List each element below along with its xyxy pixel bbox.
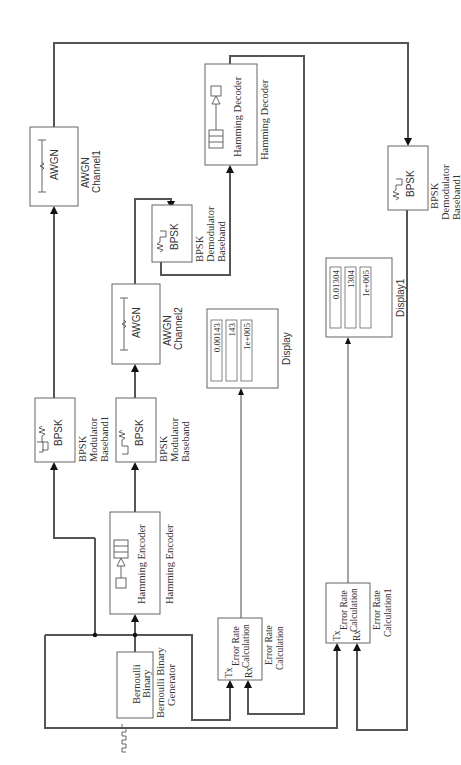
arrow-into-demod1 (404, 138, 412, 146)
block-error-rate-calculation[interactable]: Tx Rx Error Rate Calculation Error Rate … (218, 618, 285, 680)
bpsk-mod1-caption-line3: Baseband1 (99, 416, 110, 462)
block-display1[interactable]: 0.01304 1304 1e+005 Display1 (326, 258, 406, 337)
awgn2-icon-text: AWGN (131, 307, 142, 338)
bpsk-demod1-caption-line1: BPSK (429, 182, 440, 209)
block-bernoulli-binary-generator[interactable]: Bernoulli Binary Bernoulli Binary Genera… (117, 646, 177, 752)
hamming-encoder-icon-text: Hamming Encoder (136, 524, 147, 604)
bpsk-demod-caption-line2: Demodulator (205, 206, 216, 262)
awgn2-caption-line2: Channel2 (173, 307, 184, 350)
awgn2-caption-line1: AWGN (162, 315, 173, 346)
bpsk-demod-caption-line1: BPSK (194, 235, 205, 262)
bpsk-demod1-caption-line3: Baseband1 (451, 174, 461, 220)
block-awgn-channel2[interactable]: AWGN AWGN Channel2 (112, 284, 184, 364)
display-value-3: 1e+005 (242, 323, 252, 351)
awgn1-caption-line2: Channel1 (91, 150, 102, 193)
errrate1-icon-line2: Calculation (349, 588, 359, 632)
block-bpsk-modulator-baseband[interactable]: BPSK BPSK Modulator Baseband (116, 398, 191, 462)
arrow-into-errrate1-tx (333, 643, 341, 651)
branch-point-2 (133, 633, 137, 637)
arrow-into-mod (131, 462, 139, 470)
display-value-2: 143 (227, 323, 237, 337)
block-bpsk-demodulator-baseband[interactable]: BPSK BPSK Demodulator Baseband (152, 205, 227, 262)
block-awgn-channel1[interactable]: AWGN AWGN Channel1 (30, 127, 102, 206)
bpsk-mod-icon-text: BPSK (134, 419, 145, 446)
display-value-1: 0.00143 (212, 323, 222, 353)
simulink-diagram-canvas: Bernoulli Binary Bernoulli Binary Genera… (0, 0, 461, 765)
arrow-into-errrate-rx (244, 680, 252, 688)
bpsk-mod1-caption-line2: Modulator (88, 417, 99, 462)
block-display[interactable]: 0.00143 143 1e+005 Display (207, 309, 292, 388)
bpsk-mod-caption-line3: Baseband (180, 420, 191, 462)
bpsk-mod-caption-line2: Modulator (169, 417, 180, 462)
hamming-encoder-caption: Hamming Encoder (164, 524, 175, 604)
block-bpsk-demodulator-baseband1[interactable]: BPSK BPSK Demodulator Baseband1 (388, 146, 461, 220)
hamming-decoder-caption: Hamming Decoder (259, 79, 270, 160)
errrate-icon-line2: Calculation (241, 624, 251, 668)
block-error-rate-calculation1[interactable]: Tx Rx Error Rate Calculation Error Rate … (326, 583, 393, 643)
arrow-into-decoder (226, 165, 234, 173)
bpsk-mod1-icon-text: BPSK (53, 419, 64, 446)
bpsk-demod1-caption-line2: Demodulator (440, 164, 451, 220)
bpsk-demod1-icon-text: BPSK (405, 170, 416, 197)
errrate-caption-line2: Calculation (275, 626, 285, 670)
bpsk-demod-icon-text: BPSK (169, 223, 180, 250)
hamming-decoder-icon-text: Hamming Decoder (232, 76, 243, 157)
awgn1-icon-text: AWGN (49, 149, 60, 180)
branch-point-1 (93, 633, 97, 637)
block-hamming-decoder[interactable]: Hamming Decoder Hamming Decoder (205, 64, 270, 165)
arrow-into-encoder (131, 614, 139, 622)
errrate1-icon-line1: Error Rate (339, 590, 349, 630)
bernoulli-caption-line1: Bernoulli Binary (155, 646, 166, 718)
errrate-port-tx: Tx (224, 667, 234, 678)
bpsk-mod-caption-line1: BPSK (158, 435, 169, 462)
awgn1-caption-line1: AWGN (80, 157, 91, 188)
arrow-into-errrate1-rx (353, 643, 361, 651)
errrate-icon-line1: Error Rate (231, 626, 241, 666)
display-caption: Display (281, 332, 292, 365)
bernoulli-caption-line2: Generator (166, 664, 177, 706)
display1-value-3: 1e+005 (361, 270, 371, 298)
bernoulli-icon-line2: Binary (141, 669, 152, 698)
arrow-into-errrate-tx (226, 680, 234, 688)
block-hamming-encoder[interactable]: Hamming Encoder Hamming Encoder (110, 512, 175, 614)
errrate1-port-tx: Tx (332, 630, 342, 641)
display1-value-2: 1304 (346, 270, 356, 289)
arrow-into-awgn1 (50, 206, 58, 214)
bernoulli-pulse-icon (122, 724, 126, 752)
wire-split-to-mod1[interactable] (54, 466, 95, 538)
bpsk-mod1-caption-line1: BPSK (77, 435, 88, 462)
errrate1-caption-line2: Calculation1 (383, 588, 393, 637)
errrate1-caption-line1: Error Rate (372, 590, 382, 630)
arrow-into-mod1 (50, 462, 58, 470)
display1-caption: Display1 (395, 278, 406, 317)
arrow-into-display (238, 388, 244, 395)
arrow-into-display1 (345, 337, 351, 344)
display1-value-1: 0.01304 (331, 270, 341, 300)
errrate-caption-line1: Error Rate (264, 625, 274, 665)
arrow-into-awgn2 (131, 364, 139, 372)
bpsk-demod-caption-line3: Baseband (216, 220, 227, 262)
block-bpsk-modulator-baseband1[interactable]: BPSK BPSK Modulator Baseband1 (35, 398, 110, 462)
